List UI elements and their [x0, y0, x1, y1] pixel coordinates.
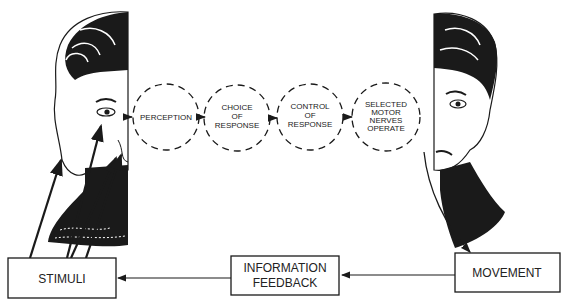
stage-label-line: OPERATE [367, 124, 405, 133]
stage-control-of-response: CONTROL OF RESPONSE [277, 84, 343, 150]
stage-label-line: OF [231, 112, 242, 121]
stage-label-line: OF [304, 111, 315, 120]
stage-label-line: CHOICE [221, 103, 252, 112]
stimuli-label: STIMULI [38, 272, 85, 286]
stage-choice-of-response: CHOICE OF RESPONSE [204, 85, 270, 151]
stage-label-line: RESPONSE [215, 121, 259, 130]
feedback-label-line1: INFORMATION [243, 261, 326, 275]
stimuli-box: STIMULI [8, 258, 116, 298]
stage-label-line: CONTROL [290, 102, 330, 111]
stage-label-line: RESPONSE [288, 120, 332, 129]
process-diagram: PERCEPTION CHOICE OF RESPONSE CONTROL OF… [0, 0, 562, 302]
information-feedback-box: INFORMATION FEEDBACK [231, 256, 339, 295]
stage-selected-motor-nerves-operate: SELECTED MOTOR NERVES OPERATE [352, 83, 420, 151]
stage-perception-label: PERCEPTION [140, 113, 192, 122]
movement-box: MOVEMENT [455, 253, 560, 292]
movement-label: MOVEMENT [472, 266, 542, 280]
right-face-illustration [434, 13, 505, 248]
feedback-label-line2: FEEDBACK [253, 276, 318, 290]
left-face-illustration [48, 12, 128, 246]
stage-perception: PERCEPTION [133, 84, 199, 150]
